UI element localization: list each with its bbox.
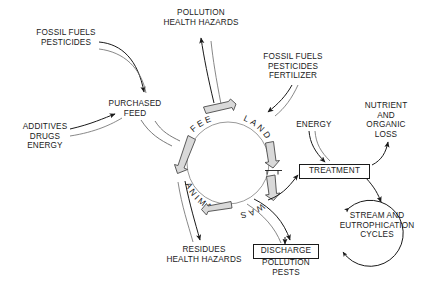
arrow-waste-to-discharge [247,199,290,243]
arrow-fossilfuels-to-purchasedfeed [99,42,146,93]
arrow-fertilizer-to-land [268,85,298,116]
label-additives-drugs-energy: ADDITIVES DRUGS ENERGY [8,122,82,151]
arrow-treatment-to-nutrientloss [372,142,388,165]
block-arrow-top [204,99,237,114]
diagram-canvas: FEED LAND WASTE ANIMALS [0,0,431,291]
block-arrow-left [175,136,196,174]
arrow-purchasedfeed-to-ring [141,120,180,146]
label-pollution-health-hazards: POLLUTION HEALTH HAZARDS [146,8,256,27]
label-stream-and-eutrophication-cycles: STREAM AND EUTROPHICATION CYCLES [328,211,426,240]
label-purchased-feed: PURCHASED FEED [96,99,174,118]
label-fossil-fuels-pesticides-fertilizer: FOSSIL FUELS PESTICIDES FERTILIZER [240,52,346,81]
block-arrow-bottom [202,202,233,216]
block-arrow-right [265,142,280,169]
label-pollution-pests: POLLUTION PESTS [253,258,319,277]
ring-block-arrows [175,99,281,215]
box-discharge[interactable]: DISCHARGE [253,244,319,259]
arrow-feed-to-pollution [201,38,221,104]
arrow-energy-to-treatment [309,131,330,162]
label-fossil-fuels-pesticides: FOSSIL FUELS PESTICIDES [16,28,116,47]
cycle-ring-circle [187,122,269,204]
label-energy: ENERGY [290,120,338,130]
block-arrow-waste [266,175,281,201]
ring-label-land: LAND [242,113,274,142]
label-nutrient-and-organic-loss: NUTRIENT AND ORGANIC LOSS [352,101,420,139]
label-residues-health-hazards: RESIDUES HEALTH HAZARDS [154,245,254,264]
arrow-treatment-to-streamcycles [366,178,381,202]
box-treatment[interactable]: TREATMENT [299,164,370,179]
